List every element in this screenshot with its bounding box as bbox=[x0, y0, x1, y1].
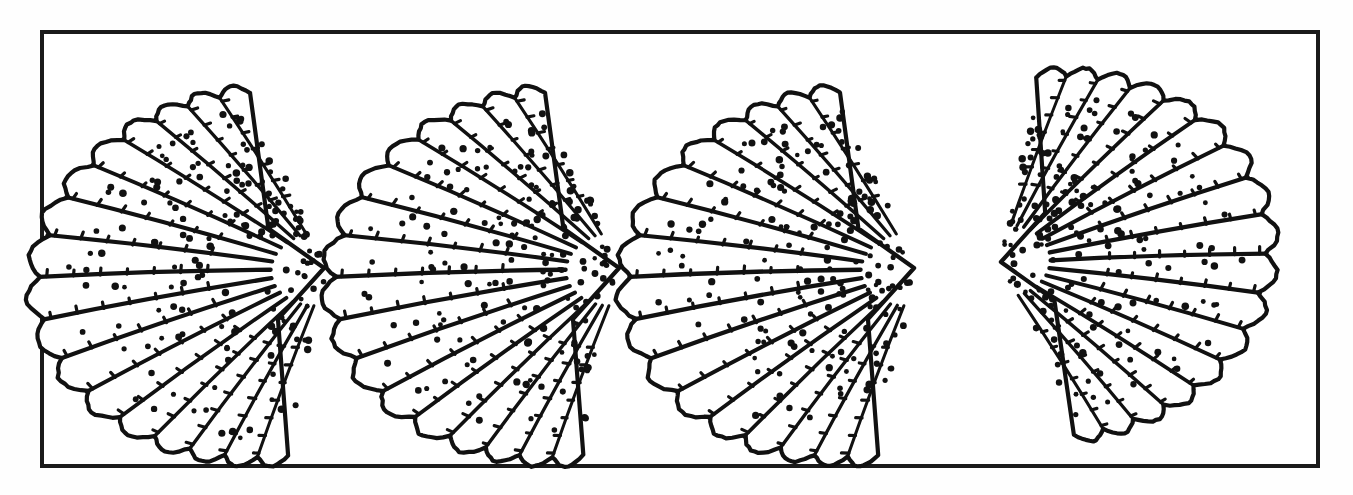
shell-umbo-dot bbox=[295, 270, 301, 276]
shell-stipple-dot bbox=[457, 337, 462, 342]
shell-rib-nodule bbox=[371, 308, 372, 313]
shell-rib-nodule bbox=[859, 363, 865, 364]
shell-umbo-dot bbox=[897, 307, 902, 312]
shell-stipple-dot bbox=[238, 436, 243, 441]
shell-umbo-dot bbox=[1019, 247, 1026, 254]
shell-stipple-dot bbox=[757, 299, 764, 306]
shell-rib-nodule bbox=[222, 100, 229, 101]
shell-stipple-dot bbox=[304, 346, 311, 353]
shell-rib-nodule bbox=[849, 380, 855, 381]
shell-rib-nodule bbox=[202, 383, 207, 385]
shell-rib-nodule bbox=[1180, 224, 1181, 229]
shell-stipple-dot bbox=[268, 169, 273, 174]
shell-stipple-dot bbox=[1239, 257, 1246, 264]
shell-stipple-dot bbox=[539, 110, 546, 117]
shell-rib-nodule bbox=[260, 380, 266, 381]
shell-rib-nodule bbox=[841, 359, 847, 361]
shell-stipple-dot bbox=[133, 396, 139, 402]
shell-stipple-dot bbox=[427, 160, 433, 166]
shell-rib-nodule bbox=[852, 164, 858, 165]
shell-rib-nodule bbox=[1131, 414, 1136, 416]
shell-stipple-dot bbox=[246, 233, 252, 239]
shell-stipple-dot bbox=[781, 123, 788, 130]
shell-rib-nodule bbox=[1106, 236, 1108, 242]
shell-stipple-dot bbox=[842, 329, 847, 334]
shell-stipple-dot bbox=[1072, 179, 1078, 185]
shell-stipple-dot bbox=[534, 185, 539, 190]
shell-rib-nodule bbox=[1099, 222, 1102, 226]
shell-stipple-dot bbox=[190, 140, 195, 145]
shell-rib-nodule bbox=[1071, 377, 1077, 379]
shell-stipple-dot bbox=[1130, 300, 1137, 307]
shell-stipple-dot bbox=[1171, 158, 1177, 164]
shell-stipple-dot bbox=[1126, 329, 1131, 334]
shell-rib-nodule bbox=[225, 392, 232, 394]
shell-stipple-dot bbox=[428, 250, 433, 255]
shell-stipple-dot bbox=[116, 323, 122, 329]
shell-stipple-dot bbox=[66, 264, 72, 270]
shell-stipple-dot bbox=[824, 256, 831, 263]
shell-stipple-dot bbox=[266, 190, 272, 196]
shell-stipple-dot bbox=[883, 340, 889, 346]
shell-umbo-dot bbox=[1047, 216, 1053, 222]
shell-stipple-dot bbox=[518, 164, 524, 170]
shell-stipple-dot bbox=[741, 316, 748, 323]
shell-umbo-dot bbox=[592, 270, 599, 277]
shell-stipple-dot bbox=[528, 416, 533, 421]
shell-stipple-dot bbox=[591, 213, 598, 220]
shell-umbo-dot bbox=[1010, 276, 1016, 282]
shell-stipple-dot bbox=[224, 188, 230, 194]
shell-umbo-dot bbox=[1048, 288, 1055, 295]
shell-rib-nodule bbox=[772, 288, 773, 295]
shell-rib-nodule bbox=[185, 245, 187, 251]
shell-stipple-dot bbox=[437, 311, 442, 316]
shell-umbo-dot bbox=[600, 244, 605, 249]
shell-umbo-dot bbox=[1011, 260, 1018, 267]
shell-stipple-dot bbox=[1041, 151, 1046, 156]
shell-rib-nodule bbox=[798, 163, 803, 165]
shell-stipple-dot bbox=[818, 276, 825, 283]
shell-stipple-dot bbox=[424, 174, 430, 180]
shell-rib-nodule bbox=[1105, 385, 1110, 387]
shell-stipple-dot bbox=[1025, 141, 1030, 146]
shell-stipple-dot bbox=[267, 204, 272, 209]
shell-umbo-dot bbox=[1018, 217, 1024, 223]
shell-stipple-dot bbox=[288, 204, 293, 209]
shell-umbo-dot bbox=[302, 274, 307, 279]
shell-umbo-dot bbox=[1037, 288, 1042, 293]
shell-stipple-dot bbox=[1114, 303, 1121, 310]
shell-stipple-dot bbox=[1091, 185, 1096, 190]
shell-stipple-dot bbox=[1116, 269, 1122, 275]
shell-rib-nodule bbox=[154, 268, 155, 274]
shell-rib-nodule bbox=[1254, 210, 1256, 215]
shell-stipple-dot bbox=[1033, 325, 1040, 332]
shell-stipple-dot bbox=[192, 257, 199, 264]
shell-stipple-dot bbox=[527, 197, 532, 202]
shell-stipple-dot bbox=[191, 408, 196, 413]
shell-rib-nodule bbox=[807, 139, 812, 141]
shell-stipple-dot bbox=[506, 278, 513, 285]
shell-stipple-dot bbox=[176, 178, 182, 184]
shell-stipple-dot bbox=[1088, 202, 1093, 207]
shell-rib-nodule bbox=[723, 239, 725, 245]
shell-rib-nodule bbox=[1070, 116, 1077, 117]
shell-stipple-dot bbox=[441, 317, 446, 322]
shell-stipple-dot bbox=[811, 223, 818, 230]
shell-umbo-dot bbox=[827, 266, 832, 271]
shell-rib-nodule bbox=[483, 443, 488, 444]
shell-stipple-dot bbox=[1052, 196, 1059, 203]
shell-stipple-dot bbox=[1022, 169, 1028, 175]
shell-umbo-dot bbox=[550, 253, 555, 258]
shell-umbo-dot bbox=[600, 275, 607, 282]
shell-umbo-dot bbox=[1052, 224, 1058, 230]
shell-stipple-dot bbox=[571, 341, 577, 347]
shell-rib-nodule bbox=[1118, 399, 1123, 401]
shell-umbo-dot bbox=[307, 249, 312, 254]
shell-umbo-dot bbox=[1007, 220, 1014, 227]
shell-rib-nodule bbox=[744, 266, 745, 273]
shell-stipple-dot bbox=[260, 179, 265, 184]
shell-stipple-dot bbox=[227, 218, 233, 224]
shell-umbo-dot bbox=[1030, 272, 1035, 277]
shell-rib-nodule bbox=[535, 190, 540, 192]
shell-rib-nodule bbox=[272, 179, 279, 180]
